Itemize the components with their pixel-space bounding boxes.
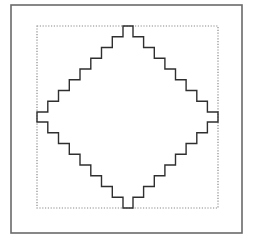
stepped-diamond-diagram bbox=[0, 0, 256, 245]
stepped-diamond-outline bbox=[37, 26, 218, 208]
dotted-bounding-box bbox=[37, 26, 218, 208]
outer-frame bbox=[11, 5, 242, 233]
